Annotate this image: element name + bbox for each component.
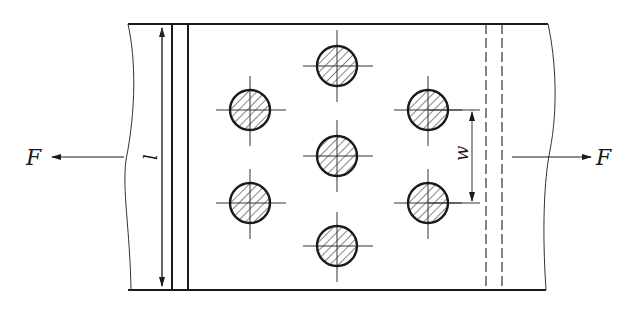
length-label: l	[140, 154, 161, 160]
spacing-label: w	[451, 145, 472, 161]
force-label-right: F	[595, 145, 612, 170]
bolt	[216, 169, 286, 239]
bolt	[394, 169, 462, 239]
bolt	[303, 30, 373, 102]
left-break-line	[125, 24, 134, 290]
bolted-joint-diagram: l F F w	[0, 0, 637, 310]
bolt	[303, 212, 373, 282]
force-label-left: F	[25, 145, 42, 170]
bolt	[216, 76, 286, 146]
bolt-group	[216, 30, 462, 282]
bolt	[303, 120, 373, 192]
bolt	[394, 76, 462, 146]
